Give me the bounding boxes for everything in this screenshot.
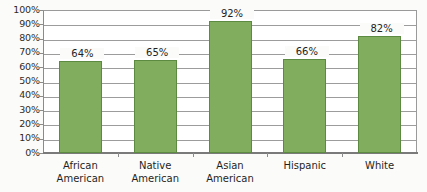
y-axis-tick-label: 30% bbox=[0, 105, 40, 115]
y-axis-tick-label: 100% bbox=[0, 5, 40, 15]
x-axis-category-label: AfricanAmerican bbox=[43, 160, 118, 185]
x-axis-category-label: White bbox=[342, 160, 417, 173]
bar-value-label: 92% bbox=[210, 8, 254, 19]
x-axis-category-label-line: Hispanic bbox=[267, 160, 342, 173]
y-axis-tick-mark bbox=[39, 139, 43, 140]
x-axis-category-label-line: American bbox=[43, 173, 118, 186]
bar bbox=[59, 61, 102, 153]
y-axis-tick-label: 50% bbox=[0, 76, 40, 86]
x-axis-category-label-line: Native bbox=[118, 160, 193, 173]
x-axis-tick-mark bbox=[193, 153, 194, 157]
x-axis-category-label-line: African bbox=[43, 160, 118, 173]
x-axis-tick-mark bbox=[267, 153, 268, 157]
bar bbox=[358, 36, 401, 153]
y-axis-tick-label: 20% bbox=[0, 119, 40, 129]
y-axis-tick-label: 0% bbox=[0, 148, 40, 158]
x-axis-category-label: NativeAmerican bbox=[118, 160, 193, 185]
bar-value-label: 65% bbox=[135, 47, 179, 58]
y-axis-tick-mark bbox=[39, 53, 43, 54]
x-axis-category-label: AsianAmerican bbox=[193, 160, 268, 185]
x-axis-category-label: Hispanic bbox=[267, 160, 342, 173]
x-axis-tick-mark bbox=[118, 153, 119, 157]
bar bbox=[134, 60, 177, 153]
y-axis-tick-mark bbox=[39, 96, 43, 97]
y-axis-tick-mark bbox=[39, 110, 43, 111]
x-axis-category-label-line: American bbox=[193, 173, 268, 186]
y-axis: 100%90%80%70%60%50%40%30%20%10%0% bbox=[0, 0, 40, 192]
x-axis-category-label-line: White bbox=[342, 160, 417, 173]
bar bbox=[283, 59, 326, 153]
x-axis-category-label-line: American bbox=[118, 173, 193, 186]
y-axis-tick-mark bbox=[39, 67, 43, 68]
bar-chart: 100%90%80%70%60%50%40%30%20%10%0% 64%Afr… bbox=[0, 0, 427, 192]
y-axis-tick-mark bbox=[39, 24, 43, 25]
y-axis-tick-mark bbox=[39, 124, 43, 125]
y-axis-tick-label: 70% bbox=[0, 47, 40, 57]
y-axis-tick-label: 40% bbox=[0, 90, 40, 100]
y-axis-tick-label: 10% bbox=[0, 133, 40, 143]
y-axis-tick-mark bbox=[39, 10, 43, 11]
bar-value-label: 66% bbox=[285, 46, 329, 57]
y-axis-tick-label: 60% bbox=[0, 62, 40, 72]
y-axis-tick-label: 90% bbox=[0, 19, 40, 29]
bar bbox=[209, 21, 252, 153]
bar-value-label: 82% bbox=[360, 23, 404, 34]
y-axis-tick-mark bbox=[39, 39, 43, 40]
y-axis-tick-mark bbox=[39, 153, 43, 154]
x-axis-category-label-line: Asian bbox=[193, 160, 268, 173]
bar-value-label: 64% bbox=[60, 48, 104, 59]
y-axis-tick-label: 80% bbox=[0, 33, 40, 43]
x-axis-tick-mark bbox=[342, 153, 343, 157]
y-axis-tick-mark bbox=[39, 82, 43, 83]
